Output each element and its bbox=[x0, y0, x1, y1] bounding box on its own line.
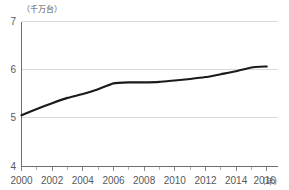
x-tick-label-2008: 2008 bbox=[133, 175, 156, 186]
line-chart-figure: 7 6 5 4 2000 2002 2004 2006 2008 2010 20… bbox=[0, 0, 289, 190]
data-series-line bbox=[22, 66, 267, 115]
y-axis-tick-labels: 7 6 5 4 bbox=[10, 16, 16, 172]
x-axis-unit-label: (年) bbox=[263, 176, 277, 186]
x-tick-label-2004: 2004 bbox=[72, 175, 95, 186]
x-axis-tick-labels: 2000 2002 2004 2006 2008 2010 2012 2014 … bbox=[10, 175, 276, 186]
x-tick-label-2006: 2006 bbox=[102, 175, 125, 186]
x-tick-label-2000: 2000 bbox=[10, 175, 33, 186]
x-tick-label-2012: 2012 bbox=[194, 175, 217, 186]
y-tick-label-7: 7 bbox=[10, 16, 16, 27]
chart-canvas: 7 6 5 4 2000 2002 2004 2006 2008 2010 20… bbox=[0, 0, 289, 190]
y-axis-unit-label: （千万台） bbox=[22, 4, 62, 14]
x-axis-major-ticks bbox=[22, 167, 267, 171]
y-tick-label-6: 6 bbox=[10, 64, 16, 75]
y-tick-label-5: 5 bbox=[10, 112, 16, 123]
axes-group bbox=[22, 22, 278, 167]
x-tick-label-2002: 2002 bbox=[41, 175, 64, 186]
y-tick-label-4: 4 bbox=[10, 161, 16, 172]
x-tick-label-2010: 2010 bbox=[164, 175, 187, 186]
x-tick-label-2014: 2014 bbox=[225, 175, 248, 186]
